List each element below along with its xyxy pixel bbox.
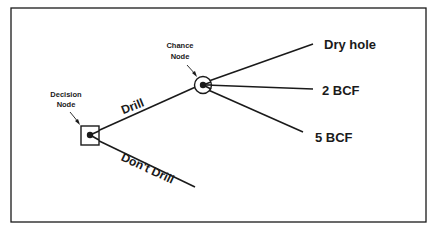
outcome-label-dry-hole: Dry hole: [324, 37, 376, 52]
decision-node-label-line2: Node: [57, 100, 76, 109]
decision-node-label-line1: Decision: [50, 90, 82, 99]
drill-branch-line: [93, 85, 200, 133]
drill-branch-label: Drill: [119, 95, 146, 117]
dry-hole-outcome-line: [206, 44, 313, 82]
decision-tree-diagram: Decision Node Chance Node Drill Don't Dr…: [0, 0, 436, 233]
decision-node-arrowhead-icon: [75, 119, 80, 125]
dont-drill-branch-label: Don't Drill: [119, 150, 176, 187]
chance-node-label-line2: Node: [171, 52, 190, 61]
5-bcf-outcome-line: [206, 89, 303, 132]
chance-node-label-line1: Chance: [166, 41, 193, 50]
2-bcf-outcome-line: [206, 85, 313, 89]
outcome-label-5-bcf: 5 BCF: [315, 130, 353, 145]
outcome-label-2-bcf: 2 BCF: [322, 83, 360, 98]
